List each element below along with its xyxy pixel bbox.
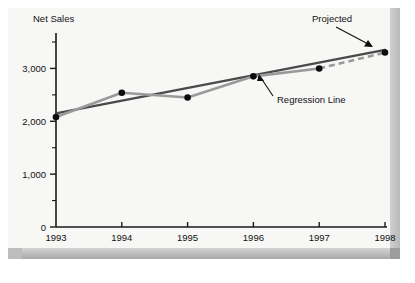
data-point-marker — [316, 65, 323, 72]
x-tick-label: 1993 — [45, 232, 66, 243]
x-tick-label: 1995 — [177, 232, 198, 243]
x-axis-tick-labels: 199319941995199619971998 — [45, 232, 395, 243]
net-sales-line-series — [56, 68, 319, 117]
y-tick-label: 3,000 — [22, 63, 46, 74]
y-tick-label: 1,000 — [22, 169, 46, 180]
data-point-marker — [53, 114, 60, 121]
x-tick-label: 1998 — [374, 232, 395, 243]
annotation-projected-arrowhead — [364, 40, 373, 47]
y-tick-label: 2,000 — [22, 116, 46, 127]
data-point-marker — [382, 49, 389, 56]
y-axis-title: Net Sales — [33, 13, 74, 24]
data-point-marker — [250, 73, 257, 80]
data-point-marker — [184, 94, 191, 101]
line-chart: 01,0002,0003,000 19931994199519961997199… — [0, 0, 415, 283]
x-tick-label: 1994 — [111, 232, 132, 243]
annotation-projected-label: Projected — [312, 13, 352, 24]
data-point-marker — [119, 89, 126, 96]
y-axis-tick-labels: 01,0002,0003,000 — [22, 63, 46, 233]
annotation-projected-leader — [336, 27, 370, 45]
y-axis-ticks — [50, 42, 56, 227]
x-tick-label: 1996 — [243, 232, 264, 243]
annotation-regression-label: Regression Line — [277, 94, 346, 105]
chart-figure: 01,0002,0003,000 19931994199519961997199… — [0, 0, 415, 283]
x-tick-label: 1997 — [309, 232, 330, 243]
annotation-regression: Regression Line — [257, 74, 346, 105]
annotation-projected: Projected — [312, 13, 373, 47]
y-tick-label: 0 — [41, 222, 46, 233]
